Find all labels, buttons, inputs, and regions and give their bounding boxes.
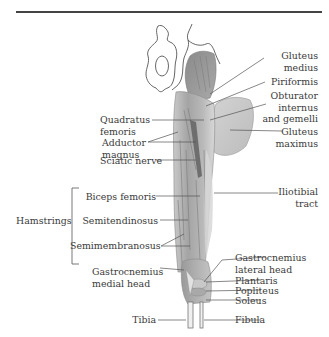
label-soleus: Soleus (235, 295, 266, 307)
tibia-bone (188, 302, 193, 328)
label-line: Gastrocnemius (92, 266, 163, 278)
label-line: lateral head (235, 264, 306, 276)
label-line: tract (262, 198, 318, 210)
label-line: Gluteus (262, 126, 318, 138)
gluteus-maximus-muscle (211, 97, 253, 155)
label-line: medius (262, 62, 318, 74)
label-line: femoris (100, 126, 150, 138)
gluteus-medius-muscle (185, 51, 216, 99)
label-sciatic-nerve: Sciatic nerve (100, 155, 162, 167)
label-line: Obturator (256, 90, 318, 102)
label-line: Hamstrings (16, 215, 72, 227)
label-line: Piriformis (262, 76, 318, 88)
label-line: Soleus (235, 295, 266, 307)
label-line: Semitendinosus (80, 215, 158, 227)
label-line: Gastrocnemius (235, 252, 306, 264)
label-line: and gemelli (256, 113, 318, 125)
label-semimembranosus: Semimembranosus (70, 240, 159, 252)
label-line: Fibula (235, 314, 265, 326)
label-line: Gluteus (262, 50, 318, 62)
label-quadratus-femoris: Quadratus femoris (100, 114, 150, 137)
anatomy-figure: Gluteus medius Piriformis Obturator inte… (0, 0, 329, 337)
label-piriformis: Piriformis (262, 76, 318, 88)
label-line: Semimembranosus (70, 240, 159, 252)
label-biceps-femoris: Biceps femoris (80, 191, 156, 203)
label-line: internus (256, 102, 318, 114)
label-gluteus-medius: Gluteus medius (262, 50, 318, 73)
popliteus-shape (190, 288, 206, 296)
label-line: Biceps femoris (80, 191, 156, 203)
label-line: Iliotibial (262, 186, 318, 198)
label-gastrocnemius-lateral-head: Gastrocnemius lateral head (235, 252, 306, 275)
label-fibula: Fibula (235, 314, 265, 326)
label-obturator-internus: Obturator internus and gemelli (256, 90, 318, 125)
label-tibia: Tibia (100, 314, 156, 326)
label-iliotibial-tract: Iliotibial tract (262, 186, 318, 209)
label-hamstrings-group: Hamstrings (16, 215, 72, 227)
hamstrings-bracket (72, 188, 79, 264)
label-line: Tibia (100, 314, 156, 326)
label-semitendinosus: Semitendinosus (80, 215, 158, 227)
label-line: Adductor (102, 137, 146, 149)
fibula-bone (200, 302, 203, 328)
label-line: Sciatic nerve (100, 155, 162, 167)
label-gluteus-maximus: Gluteus maximus (262, 126, 318, 149)
label-line: Quadratus (100, 114, 150, 126)
label-line: maximus (262, 138, 318, 150)
label-line: medial head (92, 278, 163, 290)
label-gastrocnemius-medial-head: Gastrocnemius medial head (92, 266, 163, 289)
